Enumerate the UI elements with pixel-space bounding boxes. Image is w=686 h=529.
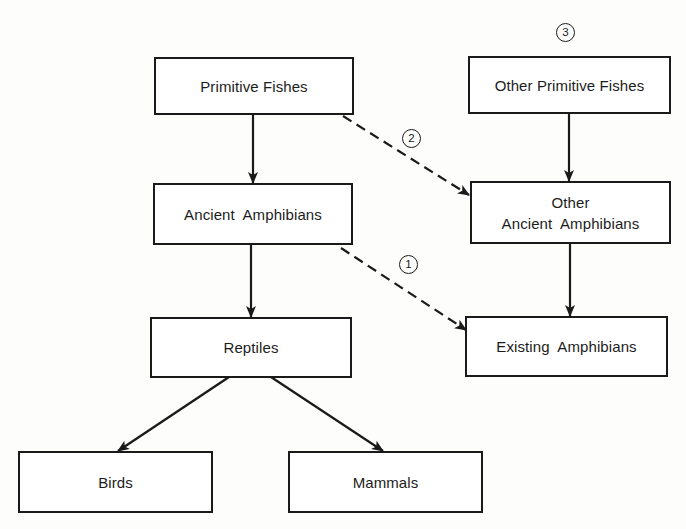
node-label: Birds [98, 472, 133, 493]
node-primitive-fishes: Primitive Fishes [154, 57, 354, 115]
node-other-primitive-fishes: Other Primitive Fishes [468, 56, 671, 114]
diagram-canvas: Primitive Fishes Ancient Amphibians Rept… [0, 0, 686, 529]
circled-number-1: 1 [399, 255, 418, 274]
circled-number-2: 2 [402, 129, 421, 148]
node-mammals: Mammals [288, 451, 483, 513]
node-label: Existing Amphibians [496, 336, 636, 357]
node-label-line-2: Ancient Amphibians [502, 213, 640, 234]
node-label: Reptiles [224, 337, 279, 358]
dashed-edge-primitive-fishes-to-other-ancient-amphibians [343, 116, 469, 195]
node-label: Primitive Fishes [200, 76, 307, 97]
node-label: Other Primitive Fishes [495, 75, 645, 96]
node-other-ancient-amphibians: Other Ancient Amphibians [470, 181, 671, 244]
edge-reptiles-to-mammals [271, 377, 383, 451]
node-ancient-amphibians: Ancient Amphibians [153, 183, 353, 245]
node-reptiles: Reptiles [150, 317, 352, 378]
circled-number-3: 3 [556, 23, 575, 42]
node-birds: Birds [18, 451, 213, 513]
edge-reptiles-to-birds [118, 377, 229, 451]
node-existing-amphibians: Existing Amphibians [465, 316, 668, 377]
node-label: Mammals [353, 472, 419, 493]
node-label-line-1: Other [551, 192, 589, 213]
node-label: Ancient Amphibians [184, 204, 322, 225]
